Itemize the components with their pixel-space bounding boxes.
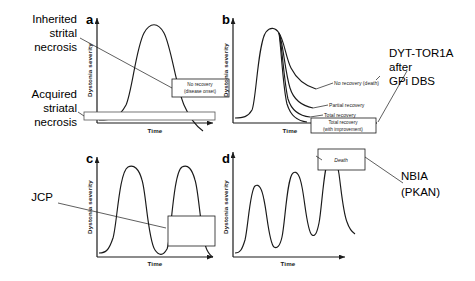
panel-a-callout-line1: No recovery	[187, 82, 213, 87]
inherited-necrosis-leader	[80, 38, 172, 88]
panel-b-label-partial-recovery: Partial recovery	[329, 102, 365, 108]
panel-d-callout-label: Death	[334, 157, 348, 163]
dyt-tor1a-label-line3: GPi DBS	[389, 75, 435, 87]
panel-c-callout-box	[168, 216, 215, 246]
panel-b-callout-line2: (with improvement)	[323, 127, 363, 132]
acquired-necrosis-band	[84, 112, 215, 120]
panel-a-callout-line2: (disease onset)	[184, 89, 216, 94]
panel-a-x-axis-label: Time	[148, 127, 163, 134]
panel-b-leader-no-recovery	[316, 83, 333, 89]
panel-c-y-axis-label: Dystonia severity	[86, 180, 93, 234]
acquired-necrosis-label-line1: Acquired	[32, 88, 77, 100]
panel-d-y-axis-label: Dystonia severity	[222, 180, 229, 234]
panel-b-leader-total-recovery	[310, 115, 323, 117]
dystonia-severity-figure: a Time Dystonia severity No recovery (di…	[0, 0, 475, 281]
nbia-leader	[365, 157, 403, 183]
inherited-necrosis-label-line1: Inherited	[32, 13, 77, 25]
panel-d-x-axis-label: Time	[281, 260, 296, 267]
inherited-necrosis-label-line2: strital	[50, 27, 77, 39]
panel-d-curve	[235, 157, 355, 253]
panel-b-y-axis-label: Dystonia severity	[222, 43, 229, 97]
dyt-tor1a-label-line1: DYT-TOR1A	[389, 47, 454, 59]
panel-c-letter: c	[86, 151, 93, 166]
panel-c-x-axis-label: Time	[148, 260, 163, 267]
jcp-leader	[58, 203, 166, 228]
acquired-necrosis-leader	[78, 112, 84, 116]
acquired-necrosis-label-line3: necrosis	[34, 116, 77, 128]
inherited-necrosis-label-line3: necrosis	[34, 41, 77, 53]
panel-b-callout-line1: Total recovery	[328, 120, 358, 125]
panel-b-letter: b	[222, 12, 230, 27]
panel-a-y-axis-label: Dystonia severity	[86, 43, 93, 97]
panel-b-label-no-recovery: No recovery (death)	[334, 80, 379, 86]
panel-a: a Time Dystonia severity No recovery (di…	[32, 12, 229, 134]
panel-d-letter: d	[222, 151, 230, 166]
nbia-label-line1: NBIA	[401, 170, 428, 182]
nbia-label-line2: (PKAN)	[401, 186, 440, 198]
panel-c: c Time Dystonia severity JCP	[31, 151, 215, 267]
panel-b-x-axis-label: Time	[283, 127, 298, 134]
panel-a-letter: a	[86, 12, 94, 27]
panel-b: b Time Dystonia severity No recovery (de…	[222, 12, 454, 134]
panel-b-label-total-recovery: Total recovery	[324, 112, 356, 118]
jcp-label: JCP	[31, 191, 53, 203]
acquired-necrosis-label-line2: striatal	[43, 102, 77, 114]
panel-d: d Time Dystonia severity Death NBIA (PKA…	[222, 149, 440, 267]
panel-b-leader-partial-recovery	[313, 105, 328, 108]
dyt-tor1a-label-line2: after	[389, 61, 412, 73]
